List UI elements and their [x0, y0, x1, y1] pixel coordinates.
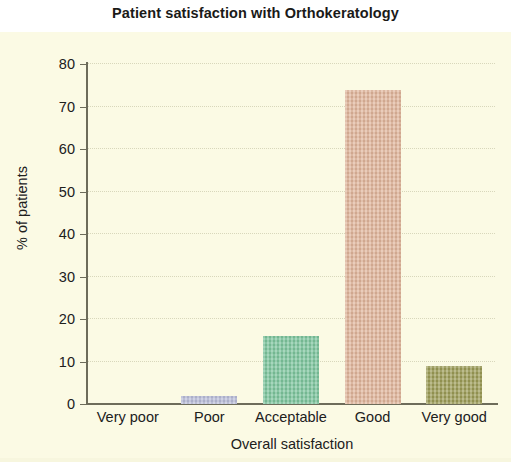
gridline	[87, 63, 495, 65]
gridline	[87, 233, 495, 235]
gridline	[87, 276, 495, 278]
y-tick-label: 0	[30, 397, 75, 411]
gridline	[87, 106, 495, 108]
y-tick-label-text: 30	[30, 270, 75, 285]
x-axis-title: Overall satisfaction	[86, 436, 498, 452]
y-tick-label: 40	[30, 227, 75, 241]
y-tick-label: 70	[30, 100, 75, 114]
y-tick-label: 60	[30, 142, 75, 156]
y-tick-label-text: 20	[30, 312, 75, 327]
x-tick-label: Good	[332, 409, 414, 425]
bar-good	[345, 90, 401, 405]
gridline	[87, 318, 495, 320]
y-tick-label-text: 50	[30, 185, 75, 200]
plot-axes-area: 80706050403020100 Very poorPoorAcceptabl…	[0, 0, 511, 462]
y-tick-label: 80	[30, 57, 75, 71]
x-tick-label: Acceptable	[250, 409, 332, 425]
y-tick-label-text: 80	[30, 57, 75, 72]
y-tick-label: 30	[30, 270, 75, 284]
y-axis-line	[86, 62, 88, 405]
y-tick-label: 10	[30, 355, 75, 369]
gridline	[87, 191, 495, 193]
y-tick-label: 50	[30, 185, 75, 199]
x-tick-label: Poor	[169, 409, 251, 425]
x-tick-label: Very good	[413, 409, 495, 425]
x-tick-label: Very poor	[87, 409, 169, 425]
y-tick-label-text: 60	[30, 142, 75, 157]
y-tick-label-text: 0	[30, 397, 75, 412]
y-tick-label: 20	[30, 312, 75, 326]
chart-figure: Patient satisfaction with Orthokeratolog…	[0, 0, 511, 462]
bar-acceptable	[263, 336, 319, 404]
bar-poor	[181, 396, 237, 405]
gridline	[87, 148, 495, 150]
y-tick-label-text: 70	[30, 100, 75, 115]
y-tick-label-text: 40	[30, 227, 75, 242]
bar-very-good	[426, 366, 482, 404]
y-axis-title: % of patients	[14, 148, 30, 268]
y-tick-label-text: 10	[30, 355, 75, 370]
